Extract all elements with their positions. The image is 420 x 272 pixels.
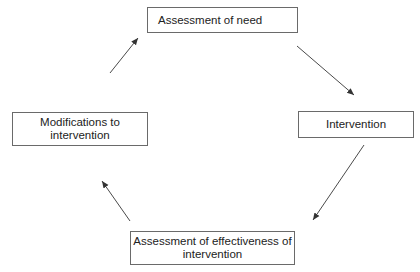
node-label-line-1: Assessment of effectiveness of — [133, 235, 291, 248]
node-label: Intervention — [326, 118, 386, 131]
node-modifications-to-intervention: Modifications to intervention — [12, 112, 148, 146]
arrow-modifications-to-need — [110, 38, 138, 73]
arrow-effectiveness-to-modifications — [102, 181, 130, 221]
node-assessment-of-need: Assessment of need — [147, 7, 298, 33]
arrow-intervention-to-effectiveness — [313, 145, 364, 220]
arrow-need-to-intervention — [297, 46, 354, 95]
node-label-line-1: Modifications to — [40, 116, 120, 129]
node-label-line-2: intervention — [50, 129, 109, 142]
node-label-line-2: intervention — [183, 248, 242, 261]
node-intervention: Intervention — [298, 111, 414, 138]
node-assessment-of-effectiveness: Assessment of effectiveness of intervent… — [130, 231, 295, 265]
node-label: Assessment of need — [158, 14, 262, 27]
